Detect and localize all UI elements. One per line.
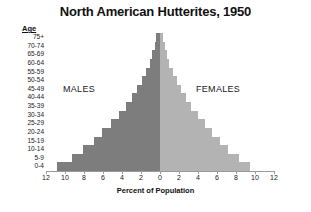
bar-male (146, 68, 160, 77)
bar-female (160, 42, 165, 51)
x-axis-tick-label: 8 (76, 174, 92, 181)
y-axis-tick-label: 25-29 (2, 119, 44, 128)
y-axis-tick-label: 60-64 (2, 59, 44, 68)
y-axis-tick-label: 5-9 (2, 154, 44, 163)
bar-male (111, 119, 160, 128)
y-axis-tick-label: 65-69 (2, 50, 44, 59)
y-axis-tick-label: 50-54 (2, 76, 44, 85)
y-axis-tick-label: 10-14 (2, 145, 44, 154)
x-axis-tick-label: 10 (57, 174, 73, 181)
plot-area (46, 33, 274, 171)
pyramid-row (46, 93, 274, 102)
series-label-females: FEMALES (196, 84, 240, 94)
x-axis-tick-label: 0 (152, 174, 168, 181)
y-axis-tick-label: 75+ (2, 33, 44, 42)
x-axis-tick-label: 12 (38, 174, 54, 181)
pyramid-row (46, 33, 274, 42)
y-axis-tick-label: 40-44 (2, 93, 44, 102)
bar-female (160, 68, 173, 77)
bar-male (57, 162, 160, 171)
pyramid-row (46, 59, 274, 68)
y-axis-tick-label: 15-19 (2, 137, 44, 146)
y-axis-tick-label: 35-39 (2, 102, 44, 111)
bar-male (137, 85, 160, 94)
bar-male (102, 128, 160, 137)
bar-female (160, 128, 212, 137)
x-axis-tick-label: 12 (266, 174, 282, 181)
series-label-males: MALES (63, 84, 95, 94)
bar-female (160, 59, 169, 68)
x-axis-tick-label: 2 (171, 174, 187, 181)
pyramid-row (46, 154, 274, 163)
bar-female (160, 111, 198, 120)
y-axis-tick-label: 0-4 (2, 162, 44, 171)
bar-female (160, 33, 163, 42)
chart-title: North American Hutterites, 1950 (0, 4, 311, 19)
y-axis-title: Age (22, 24, 36, 33)
bar-male (119, 111, 160, 120)
bar-female (160, 162, 250, 171)
bar-female (160, 102, 191, 111)
pyramid-row (46, 42, 274, 51)
pyramid-row (46, 68, 274, 77)
pyramid-row (46, 137, 274, 146)
pyramid-row (46, 111, 274, 120)
pyramid-row (46, 119, 274, 128)
bar-female (160, 145, 228, 154)
x-axis-tick-label: 4 (190, 174, 206, 181)
bar-female (160, 50, 167, 59)
pyramid-row (46, 102, 274, 111)
bar-female (160, 85, 181, 94)
pyramid-row (46, 128, 274, 137)
y-axis-tick-label: 30-34 (2, 111, 44, 120)
bar-male (150, 59, 160, 68)
x-axis-title: Percent of Population (0, 186, 311, 195)
y-axis-tick-label: 20-24 (2, 128, 44, 137)
bar-male (152, 50, 160, 59)
bar-male (132, 93, 161, 102)
x-axis-tick-label: 10 (247, 174, 263, 181)
bar-male (83, 145, 160, 154)
bar-female (160, 137, 220, 146)
bar-male (126, 102, 160, 111)
y-axis-tick-labels: 75+70-7465-6960-6455-5950-5445-4940-4435… (0, 33, 44, 171)
x-axis-tick-label: 2 (133, 174, 149, 181)
bar-male (94, 137, 161, 146)
bar-female (160, 76, 177, 85)
bar-female (160, 119, 205, 128)
x-axis-tick-label: 6 (209, 174, 225, 181)
x-axis-tick-label: 4 (114, 174, 130, 181)
bar-male (142, 76, 160, 85)
y-axis-tick-label: 45-49 (2, 85, 44, 94)
x-axis-tick-label: 6 (95, 174, 111, 181)
y-axis-tick-label: 55-59 (2, 68, 44, 77)
pyramid-row (46, 50, 274, 59)
pyramid-row (46, 145, 274, 154)
bar-female (160, 93, 186, 102)
bar-male (72, 154, 160, 163)
bar-female (160, 154, 239, 163)
y-axis-tick-label: 70-74 (2, 42, 44, 51)
population-pyramid-chart: North American Hutterites, 1950 Age 75+7… (0, 0, 311, 212)
x-axis-tick-label: 8 (228, 174, 244, 181)
pyramid-row (46, 162, 274, 171)
